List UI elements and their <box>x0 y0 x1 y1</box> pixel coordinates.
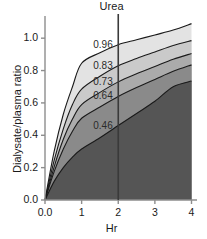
y-tick-label-3: 0.6 <box>23 96 38 108</box>
band-label-2: 0.73 <box>93 76 112 87</box>
x-tick-label-2: 2 <box>104 206 132 218</box>
x-tick-label-1: 1 <box>68 206 96 218</box>
band-label-0: 0.96 <box>93 39 112 50</box>
y-axis-label: Dialysate/plasma ratio <box>11 65 23 173</box>
band-label-1: 0.83 <box>93 60 112 71</box>
x-tick-label-0: 0.0 <box>31 206 59 218</box>
chart-figure: Urea 0.00.20.40.60.81.0 0.01234 0.960.83… <box>0 0 207 239</box>
y-tick-label-2: 0.4 <box>23 128 38 140</box>
x-tick-label-4: 4 <box>178 206 206 218</box>
y-tick-label-4: 0.8 <box>23 64 38 76</box>
x-axis-label: Hr <box>0 222 207 234</box>
y-tick-label-0: 0.0 <box>23 193 38 205</box>
x-axis-label-text: Hr <box>106 222 118 234</box>
x-tick-label-3: 3 <box>141 206 169 218</box>
band-label-4: 0.46 <box>93 120 112 131</box>
y-tick-label-5: 1.0 <box>23 31 38 43</box>
y-tick-label-1: 0.2 <box>23 161 38 173</box>
band-label-3: 0.64 <box>93 90 112 101</box>
